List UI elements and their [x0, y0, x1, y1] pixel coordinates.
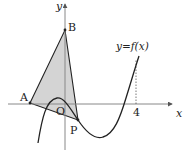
curve-label: y=f(x) — [115, 40, 149, 52]
point-label-p: P — [70, 124, 78, 137]
origin-label: O — [56, 105, 65, 118]
graph-canvas: y x O B A P 4 y=f(x) — [0, 0, 186, 152]
point-a — [29, 102, 32, 105]
triangle-abp — [30, 30, 78, 120]
point-label-a: A — [19, 91, 29, 104]
point-p — [77, 119, 80, 122]
tick-label-4: 4 — [133, 106, 140, 119]
y-axis-label: y — [55, 0, 63, 13]
x-axis-label: x — [176, 107, 183, 120]
point-b — [64, 29, 67, 32]
point-label-b: B — [68, 21, 76, 34]
